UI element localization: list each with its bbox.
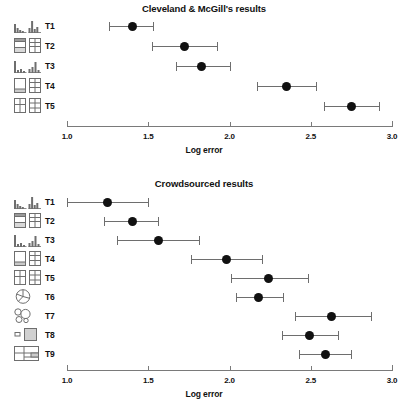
data-point (222, 255, 231, 264)
chart-row: T8 (0, 327, 408, 345)
chart-row: T5 (0, 270, 408, 288)
error-bar-cap-low (324, 102, 325, 111)
x-axis-tick (311, 366, 312, 371)
error-bar-cap-high (379, 102, 380, 111)
x-axis-tick-label: 1.5 (143, 132, 154, 141)
data-point (282, 82, 291, 91)
row-label-t2: T2 (45, 216, 55, 226)
chart-row: T4 (0, 78, 408, 96)
row-label-t5: T5 (45, 273, 55, 283)
chart-row: T4 (0, 251, 408, 269)
error-bar-cap-low (236, 293, 237, 302)
error-bar-cap-high (153, 22, 154, 31)
chart-row: T6 (0, 289, 408, 307)
bubble-chart-icon (14, 308, 42, 325)
data-point (264, 274, 273, 283)
data-point (128, 22, 137, 31)
data-point (327, 312, 336, 321)
data-point (180, 42, 189, 51)
chart-row: T3 (0, 232, 408, 250)
row-label-t1: T1 (45, 21, 55, 31)
error-bar-cap-high (158, 217, 159, 226)
stacked-bar-two-panel-icon (14, 38, 42, 55)
error-bar-cap-low (117, 236, 118, 245)
bar-chart-separated-icon (14, 232, 42, 249)
row-label-t3: T3 (45, 235, 55, 245)
stacked-bar-split-icon (14, 98, 42, 115)
stacked-bar-two-panel-icon (14, 213, 42, 230)
chart-row: T7 (0, 308, 408, 326)
error-bar-cap-low (109, 22, 110, 31)
error-bar-cap-low (67, 198, 68, 207)
row-label-t4: T4 (45, 254, 55, 264)
plot-area-cleveland-mcgill: T1T2T3T4T51.01.52.02.53.0Log error (0, 0, 408, 170)
error-bar-cap-high (316, 82, 317, 91)
data-point (321, 350, 330, 359)
error-bar-cap-low (152, 42, 153, 51)
error-bar-cap-low (295, 312, 296, 321)
x-axis-tick-label: 2.5 (305, 376, 316, 385)
row-label-t2: T2 (45, 41, 55, 51)
x-axis-tick-label: 2.5 (305, 132, 316, 141)
stacked-bar-split-icon (14, 270, 42, 287)
figure-forest-plots: Cleveland & McGill's results T1T2T3T4T51… (0, 0, 408, 414)
error-bar-cap-low (191, 255, 192, 264)
x-axis-tick (148, 122, 149, 127)
data-point (128, 217, 137, 226)
x-axis-tick-label: 1.0 (62, 132, 73, 141)
row-label-t4: T4 (45, 81, 55, 91)
bar-chart-grouped-icon (14, 194, 42, 211)
x-axis-end-stub (392, 365, 393, 371)
chart-row: T5 (0, 98, 408, 116)
x-axis-tick-label: 3.0 (387, 376, 398, 385)
error-bar-cap-low (104, 217, 105, 226)
data-point (347, 102, 356, 111)
chart-row: T3 (0, 58, 408, 76)
error-bar-cap-low (176, 62, 177, 71)
x-axis-start-stub (67, 365, 68, 371)
error-bar-cap-low (231, 274, 232, 283)
x-axis-tick-label: 3.0 (387, 132, 398, 141)
x-axis-tick-label: 1.5 (143, 376, 154, 385)
data-point (154, 236, 163, 245)
row-label-t1: T1 (45, 197, 55, 207)
x-axis-tick (230, 122, 231, 127)
data-point (254, 293, 263, 302)
x-axis-title: Log error (0, 145, 408, 155)
row-label-t9: T9 (45, 349, 55, 359)
chart-row: T2 (0, 38, 408, 56)
row-label-t5: T5 (45, 101, 55, 111)
x-axis-tick (311, 122, 312, 127)
error-bar-cap-high (230, 62, 231, 71)
data-point (103, 198, 112, 207)
bar-chart-grouped-icon (14, 18, 42, 35)
data-point (305, 331, 314, 340)
x-axis-tick-label: 1.0 (62, 376, 73, 385)
error-bar-cap-high (308, 274, 309, 283)
error-bar-cap-high (371, 312, 372, 321)
row-label-t7: T7 (45, 311, 55, 321)
error-bar-cap-high (217, 42, 218, 51)
x-axis-title: Log error (0, 389, 408, 399)
stacked-bar-tall-icon (14, 251, 42, 268)
error-bar-cap-high (283, 293, 284, 302)
error-bar-cap-low (282, 331, 283, 340)
chart-row: T1 (0, 18, 408, 36)
treemap-icon (14, 346, 42, 363)
chart-row: T9 (0, 346, 408, 364)
bar-chart-separated-icon (14, 58, 42, 75)
x-axis-tick-label: 2.0 (224, 132, 235, 141)
x-axis-end-stub (392, 121, 393, 127)
error-bar-cap-high (199, 236, 200, 245)
panel-cleveland-mcgill: Cleveland & McGill's results T1T2T3T4T51… (0, 0, 408, 170)
error-bar-cap-high (148, 198, 149, 207)
error-bar-cap-low (257, 82, 258, 91)
panel-crowdsourced: Crowdsourced results T1T2T3T4T5T6T7T8T91… (0, 170, 408, 414)
error-bar-cap-high (338, 331, 339, 340)
data-point (197, 62, 206, 71)
x-axis-start-stub (67, 121, 68, 127)
chart-row: T2 (0, 213, 408, 231)
x-axis-tick (230, 366, 231, 371)
error-bar-cap-low (299, 350, 300, 359)
stacked-bar-tall-icon (14, 78, 42, 95)
